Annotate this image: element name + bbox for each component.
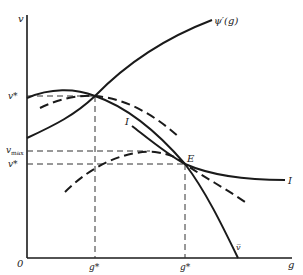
equilibrium-label: E [186,153,195,164]
g-star-right-label: g* [180,262,191,272]
v-bar-label: v̅ [236,243,241,252]
indifference-label-left: I [124,116,130,127]
g-star-left-label: g* [89,262,100,272]
y-axis-label: v [18,13,24,24]
psi-prime-curve [27,20,212,138]
hump-curve [27,90,238,258]
x-axis-label: g [288,259,294,270]
v-star-upper-label: v* [8,91,18,101]
indifference-label-right: I [287,175,293,186]
v-max-label: vmax [6,145,24,156]
lower-dashed-curve [65,152,245,202]
v-star-lower-label: v* [8,159,18,169]
psi-prime-label: ψ′(g) [214,15,238,26]
guide-lines [27,96,185,258]
origin-label: 0 [17,258,24,269]
economics-diagram: v 0 g v* vmax v* g* g* ψ′(g) v̅ I I [0,0,303,275]
